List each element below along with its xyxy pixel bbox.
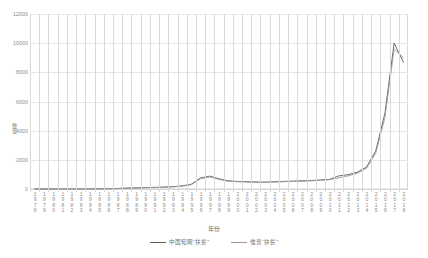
x-tick-label: 1996 bbox=[198, 191, 203, 213]
x-tick-label: 1989 bbox=[134, 191, 139, 213]
tick-divider bbox=[334, 14, 335, 192]
tick-divider bbox=[159, 14, 160, 192]
legend-line-icon bbox=[231, 242, 247, 243]
x-tick-label: 2006 bbox=[290, 191, 295, 213]
tick-divider bbox=[214, 14, 215, 192]
tick-divider bbox=[353, 14, 354, 192]
tick-divider bbox=[141, 14, 142, 192]
tick-divider bbox=[251, 14, 252, 192]
x-tick-label: 2000 bbox=[235, 191, 240, 213]
legend-item-weipu: 维普“扶贫” bbox=[231, 238, 278, 246]
gridline bbox=[30, 160, 408, 161]
y-tick-label: 6000 bbox=[16, 99, 28, 105]
tick-divider bbox=[48, 14, 49, 192]
tick-divider bbox=[270, 14, 271, 192]
tick-divider bbox=[362, 14, 363, 192]
x-tick-label: 2002 bbox=[253, 191, 258, 213]
tick-divider bbox=[307, 14, 308, 192]
x-tick-label: 1988 bbox=[124, 191, 129, 213]
x-tick-label: 1980 bbox=[51, 191, 56, 213]
y-tick-label: 10000 bbox=[13, 40, 28, 46]
legend-line-icon bbox=[150, 242, 166, 243]
tick-divider bbox=[390, 14, 391, 192]
x-tick-label: 2005 bbox=[281, 191, 286, 213]
tick-divider bbox=[187, 14, 188, 192]
chart-container: 020004000600080001000012000 数量 197819791… bbox=[0, 0, 428, 258]
y-tick-label: 0 bbox=[25, 186, 28, 192]
chart-legend: 中国知网“扶贫” 维普“扶贫” bbox=[0, 238, 428, 246]
legend-item-cnki: 中国知网“扶贫” bbox=[150, 238, 210, 246]
gridline bbox=[30, 43, 408, 44]
legend-label: 维普“扶贫” bbox=[250, 238, 278, 246]
tick-divider bbox=[325, 14, 326, 192]
x-tick-label: 2012 bbox=[346, 191, 351, 213]
x-tick-label: 1999 bbox=[226, 191, 231, 213]
x-tick-label: 1997 bbox=[207, 191, 212, 213]
x-tick-label: 1991 bbox=[152, 191, 157, 213]
x-tick-label: 1983 bbox=[78, 191, 83, 213]
x-tick-label: 1982 bbox=[69, 191, 74, 213]
x-tick-label: 1994 bbox=[180, 191, 185, 213]
x-tick-label: 2016 bbox=[382, 191, 387, 213]
x-tick-label: 1990 bbox=[143, 191, 148, 213]
x-tick-label: 2015 bbox=[373, 191, 378, 213]
tick-divider bbox=[233, 14, 234, 192]
tick-divider bbox=[224, 14, 225, 192]
tick-divider bbox=[104, 14, 105, 192]
legend-label: 中国知网“扶贫” bbox=[169, 238, 210, 246]
x-tick-label: 1992 bbox=[161, 191, 166, 213]
tick-divider bbox=[122, 14, 123, 192]
x-tick-label: 1986 bbox=[106, 191, 111, 213]
x-tick-label: 1993 bbox=[170, 191, 175, 213]
tick-divider bbox=[150, 14, 151, 192]
tick-divider bbox=[260, 14, 261, 192]
y-axis-title: 数量 bbox=[11, 123, 16, 132]
y-tick-label: 2000 bbox=[16, 157, 28, 163]
x-tick-label: 2018 bbox=[401, 191, 406, 213]
gridline bbox=[30, 189, 408, 190]
y-tick-label: 4000 bbox=[16, 128, 28, 134]
x-tick-label: 2007 bbox=[299, 191, 304, 213]
tick-divider bbox=[85, 14, 86, 192]
x-tick-label: 2009 bbox=[318, 191, 323, 213]
y-tick-label: 8000 bbox=[16, 69, 28, 75]
x-tick-label: 1981 bbox=[60, 191, 65, 213]
x-tick-label: 1984 bbox=[87, 191, 92, 213]
tick-divider bbox=[279, 14, 280, 192]
x-tick-label: 2008 bbox=[309, 191, 314, 213]
tick-divider bbox=[316, 14, 317, 192]
tick-divider bbox=[58, 14, 59, 192]
x-tick-label: 1995 bbox=[189, 191, 194, 213]
x-tick-label: 1998 bbox=[217, 191, 222, 213]
x-tick-label: 2003 bbox=[263, 191, 268, 213]
tick-divider bbox=[76, 14, 77, 192]
tick-divider bbox=[113, 14, 114, 192]
x-tick-label: 2014 bbox=[364, 191, 369, 213]
tick-divider bbox=[196, 14, 197, 192]
tick-divider bbox=[67, 14, 68, 192]
x-tick-label: 1978 bbox=[32, 191, 37, 213]
x-tick-label: 1979 bbox=[41, 191, 46, 213]
tick-divider bbox=[168, 14, 169, 192]
tick-divider bbox=[380, 14, 381, 192]
x-tick-label: 1985 bbox=[97, 191, 102, 213]
tick-divider bbox=[131, 14, 132, 192]
x-tick-label: 1987 bbox=[115, 191, 120, 213]
tick-divider bbox=[242, 14, 243, 192]
y-tick-label: 12000 bbox=[13, 11, 28, 17]
gridline bbox=[30, 102, 408, 103]
x-tick-label: 2010 bbox=[327, 191, 332, 213]
gridline bbox=[30, 72, 408, 73]
tick-divider bbox=[297, 14, 298, 192]
x-tick-label: 2004 bbox=[272, 191, 277, 213]
gridline bbox=[30, 14, 408, 15]
tick-divider bbox=[205, 14, 206, 192]
x-tick-label: 2011 bbox=[336, 191, 341, 213]
x-tick-label: 2001 bbox=[244, 191, 249, 213]
x-axis-title: 年份 bbox=[0, 224, 428, 233]
tick-divider bbox=[371, 14, 372, 192]
tick-divider bbox=[343, 14, 344, 192]
tick-divider bbox=[288, 14, 289, 192]
gridline bbox=[30, 131, 408, 132]
x-tick-label: 2017 bbox=[392, 191, 397, 213]
